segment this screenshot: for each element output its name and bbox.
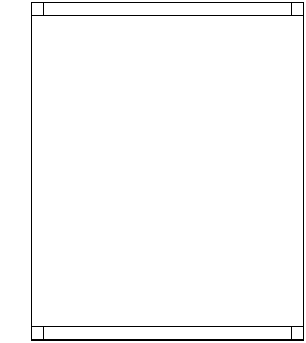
top-banner <box>31 2 304 16</box>
corner-label-bottom-left <box>31 326 44 340</box>
banner-label-bottom-center <box>44 326 291 340</box>
banner-label-top-center <box>44 2 291 16</box>
grid-diagram <box>0 0 306 343</box>
bottom-banner <box>31 326 304 340</box>
grid-area <box>31 16 304 326</box>
corner-label-top-left <box>31 2 44 16</box>
corner-label-top-right <box>291 2 304 16</box>
corner-label-bottom-right <box>291 326 304 340</box>
